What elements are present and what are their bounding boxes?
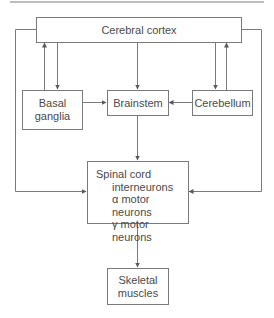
spinal-item-gamma-motor-neurons: γ motor neurons — [96, 218, 188, 243]
node-label-line: muscles — [118, 287, 158, 300]
node-skeletal-muscles: Skeletal muscles — [107, 268, 169, 305]
spinal-item-alpha-motor-neurons: α motor neurons — [96, 193, 188, 218]
node-cerebral-cortex: Cerebral cortex — [36, 17, 242, 43]
node-label: Cerebral cortex — [101, 24, 176, 37]
node-label-line: ganglia — [35, 110, 70, 123]
node-label: Brainstem — [113, 97, 163, 110]
node-label: Spinal cord — [96, 168, 188, 181]
node-basal-ganglia: Basal ganglia — [22, 90, 83, 130]
spinal-item-interneurons: interneurons — [96, 181, 188, 194]
node-cerebellum: Cerebellum — [192, 90, 253, 116]
node-brainstem: Brainstem — [107, 90, 169, 116]
node-label-line: Basal — [39, 97, 67, 110]
node-spinal-cord: Spinal cord interneurons α motor neurons… — [87, 161, 189, 224]
node-label-line: Skeletal — [118, 274, 157, 287]
node-label: Cerebellum — [194, 97, 250, 110]
